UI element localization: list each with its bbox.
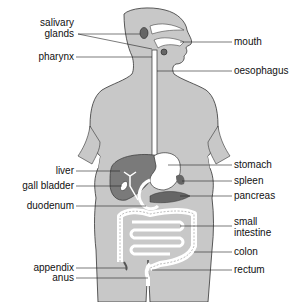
- label-liver: liver: [20, 165, 74, 176]
- label-stomach: stomach: [234, 159, 272, 170]
- label-mouth: mouth: [234, 36, 262, 47]
- label-small-intestine: small intestine: [234, 216, 271, 238]
- label-pancreas: pancreas: [234, 190, 275, 201]
- salivary-gland-lower: [161, 49, 167, 55]
- label-gall-bladder: gall bladder: [8, 180, 74, 191]
- label-duodenum: duodenum: [8, 200, 74, 211]
- label-oesophagus: oesophagus: [234, 65, 289, 76]
- label-salivary-glands: salivary glands: [30, 17, 74, 39]
- oesophagus-tube: [152, 50, 157, 156]
- salivary-gland-upper: [140, 28, 148, 39]
- label-colon: colon: [234, 246, 258, 257]
- label-spleen: spleen: [234, 175, 263, 186]
- label-anus: anus: [8, 272, 74, 283]
- label-pharynx: pharynx: [20, 51, 74, 62]
- label-salivary-line1: salivary: [30, 17, 74, 28]
- label-small-intestine-line1: small: [234, 216, 271, 227]
- label-small-intestine-line2: intestine: [234, 227, 271, 238]
- label-rectum: rectum: [234, 264, 265, 275]
- label-salivary-line2: glands: [30, 28, 74, 39]
